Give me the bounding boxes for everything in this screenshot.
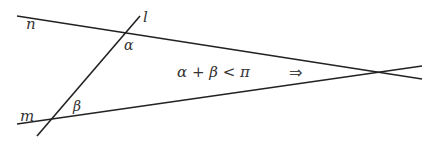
parallel-postulate-diagram: n l α β m α + β < π ⇒	[0, 0, 436, 143]
label-n: n	[26, 15, 36, 33]
label-beta: β	[72, 98, 81, 114]
implies-arrow: ⇒	[289, 63, 302, 82]
label-m: m	[20, 107, 34, 125]
condition-formula: α + β < π	[177, 63, 251, 81]
label-l: l	[143, 8, 148, 26]
line-l	[37, 16, 140, 136]
label-alpha: α	[124, 37, 134, 53]
